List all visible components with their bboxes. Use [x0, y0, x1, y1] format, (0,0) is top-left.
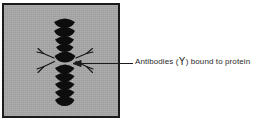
callout-leader	[73, 61, 133, 67]
protein-subunit	[55, 81, 75, 90]
antibody-labeling-figure: Antibodies (Y) bound to protein	[0, 0, 272, 126]
protein-subunit	[55, 65, 75, 74]
protein-subunit	[54, 19, 75, 29]
protein-subunit	[55, 36, 74, 45]
antibody-lower-left	[37, 62, 55, 73]
protein-subunit-center	[55, 52, 76, 63]
protein-subunit	[54, 27, 75, 37]
antibody-upper-left	[37, 49, 54, 59]
protein-subunit	[55, 96, 75, 106]
antibody-upper-right	[76, 49, 93, 59]
protein-subunit	[55, 89, 75, 98]
protein-filament	[54, 19, 76, 107]
callout-label-prefix: Antibodies (	[135, 57, 178, 66]
protein-subunit	[56, 44, 74, 52]
antibody-y-glyph: Y	[178, 56, 185, 67]
protein-subunit	[55, 73, 75, 82]
callout-label-suffix: ) bound to protein	[186, 57, 251, 66]
callout-label: Antibodies (Y) bound to protein	[135, 57, 250, 67]
